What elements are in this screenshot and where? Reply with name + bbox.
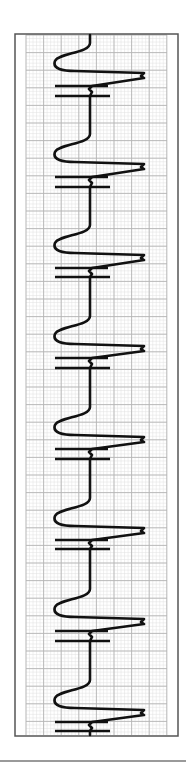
bottom-divider	[0, 760, 186, 762]
ecg-rhythm-strip	[0, 0, 186, 764]
